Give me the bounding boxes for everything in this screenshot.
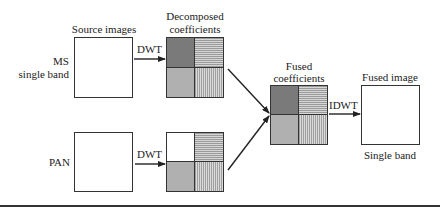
bottom-rule [0, 205, 440, 207]
flow-arrows [0, 0, 440, 210]
fusion-arrow-pan [228, 116, 269, 170]
fusion-arrow-ms [228, 69, 269, 113]
